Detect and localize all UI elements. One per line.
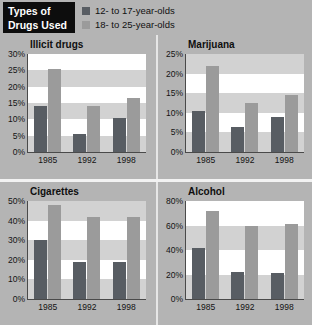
bar — [245, 103, 258, 152]
bar — [48, 69, 61, 152]
x-axis-tick-label: 1985 — [38, 302, 57, 312]
x-axis-labels: 198519921998 — [28, 155, 146, 169]
y-axis-tick-label: 0% — [13, 147, 25, 157]
y-axis-tick-label: 60% — [166, 221, 183, 231]
bar-group — [67, 201, 106, 299]
y-axis-tick-label: 25% — [8, 65, 25, 75]
bar — [34, 106, 47, 152]
bar — [285, 224, 298, 299]
bar — [127, 98, 140, 152]
bar-group — [186, 201, 225, 299]
x-axis-line — [27, 152, 146, 153]
y-axis-tick-label: 10% — [166, 108, 183, 118]
chart-title: Cigarettes — [30, 186, 79, 197]
chart-title: Illicit drugs — [30, 39, 83, 50]
x-axis-line — [185, 299, 304, 300]
x-axis-labels: 198519921998 — [28, 302, 146, 316]
y-axis-line — [185, 54, 186, 152]
bar — [113, 118, 126, 152]
y-axis-labels: 0%5%10%15%20%25% — [158, 54, 185, 152]
y-axis-tick-label: 10% — [8, 274, 25, 284]
bar — [245, 226, 258, 300]
y-axis-tick-label: 30% — [8, 235, 25, 245]
legend-label-18-25: 18- to 25-year-olds — [95, 19, 175, 30]
plot-background — [186, 54, 304, 152]
y-axis-line — [185, 201, 186, 299]
x-axis-tick-label: 1992 — [78, 155, 97, 165]
plot-area — [28, 201, 146, 299]
x-axis-tick-label: 1998 — [117, 302, 136, 312]
plot-background — [28, 54, 146, 152]
bar — [192, 111, 205, 152]
y-axis-tick-label: 0% — [171, 147, 183, 157]
bar-group — [265, 201, 304, 299]
chart-panel-marijuana: Marijuana 0%5%10%15%20%25% 198519921998 — [158, 35, 312, 179]
legend-item-18-25: 18- to 25-year-olds — [82, 18, 175, 31]
bar-group — [28, 201, 67, 299]
bar — [87, 106, 100, 152]
bar-group — [67, 54, 106, 152]
y-axis-tick-label: 25% — [166, 49, 183, 59]
x-axis-tick-label: 1985 — [196, 155, 215, 165]
plot-area — [186, 201, 304, 299]
legend-swatch-18-25 — [82, 21, 90, 29]
legend-item-12-17: 12- to 17-year-olds — [82, 4, 175, 17]
x-axis-tick-label: 1985 — [38, 155, 57, 165]
y-axis-line — [27, 54, 28, 152]
bar — [231, 127, 244, 152]
bar-group — [107, 54, 146, 152]
y-axis-tick-label: 80% — [166, 196, 183, 206]
bar — [271, 117, 284, 152]
x-axis-line — [27, 299, 146, 300]
plot-area — [28, 54, 146, 152]
y-axis-labels: 0%5%10%15%20%25%30% — [0, 54, 27, 152]
y-axis-tick-label: 40% — [8, 216, 25, 226]
y-axis-tick-label: 0% — [171, 294, 183, 304]
chart-title: Alcohol — [188, 186, 225, 197]
y-axis-labels: 0%20%40%60%80% — [158, 201, 185, 299]
y-axis-tick-label: 30% — [8, 49, 25, 59]
plot-background — [186, 201, 304, 299]
bar — [113, 262, 126, 299]
x-axis-tick-label: 1985 — [196, 302, 215, 312]
chart-panel-cigarettes: Cigarettes 0%10%20%30%40%50% 19851992199… — [0, 182, 156, 325]
x-axis-tick-label: 1998 — [275, 302, 294, 312]
plot-area — [186, 54, 304, 152]
y-axis-tick-label: 20% — [166, 270, 183, 280]
bar — [87, 217, 100, 299]
bar — [34, 240, 47, 299]
bar-group — [107, 201, 146, 299]
page-title-line-1: Types of — [8, 4, 75, 18]
y-axis-line — [27, 201, 28, 299]
y-axis-tick-label: 40% — [166, 245, 183, 255]
bar — [271, 273, 284, 299]
bar — [48, 205, 61, 299]
bar-group — [28, 54, 67, 152]
bar-series-container — [28, 201, 146, 299]
bar-group — [225, 54, 264, 152]
chart-panel-grid: Illicit drugs 0%5%10%15%20%25%30% 198519… — [0, 35, 312, 325]
y-axis-labels: 0%10%20%30%40%50% — [0, 201, 27, 299]
bar-series-container — [186, 54, 304, 152]
infographic-header: Types of Drugs Used 12- to 17-year-olds … — [0, 0, 312, 35]
x-axis-labels: 198519921998 — [186, 155, 304, 169]
y-axis-tick-label: 15% — [8, 98, 25, 108]
page-title-line-2: Drugs Used — [8, 18, 75, 32]
y-axis-tick-label: 20% — [8, 255, 25, 265]
legend-label-12-17: 12- to 17-year-olds — [95, 5, 175, 16]
x-axis-line — [185, 152, 304, 153]
y-axis-tick-label: 5% — [171, 127, 183, 137]
bar — [206, 66, 219, 152]
chart-panel-illicit-drugs: Illicit drugs 0%5%10%15%20%25%30% 198519… — [0, 35, 156, 179]
bar — [206, 211, 219, 299]
bar — [231, 272, 244, 299]
legend-swatch-12-17 — [82, 7, 90, 15]
chart-panel-alcohol: Alcohol 0%20%40%60%80% 198519921998 — [158, 182, 312, 325]
y-axis-tick-label: 20% — [166, 69, 183, 79]
x-axis-tick-label: 1992 — [236, 302, 255, 312]
y-axis-tick-label: 0% — [13, 294, 25, 304]
bar-group — [225, 201, 264, 299]
y-axis-tick-label: 50% — [8, 196, 25, 206]
chart-title: Marijuana — [188, 39, 235, 50]
y-axis-tick-label: 5% — [13, 131, 25, 141]
